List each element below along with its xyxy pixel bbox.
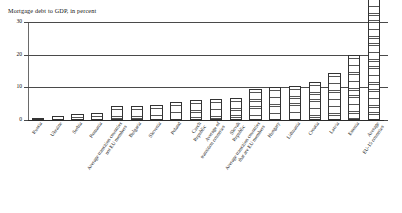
bar[interactable] [368, 0, 380, 120]
x-axis-label-line: Latvia [329, 121, 341, 135]
y-tick-0 [24, 120, 28, 121]
y-tick-right-20 [384, 55, 388, 56]
bar-series: 50 [28, 22, 384, 120]
bar-slot: 50 [368, 0, 380, 120]
y-tick-right-30 [384, 22, 388, 23]
x-axis-label-line: Estonia [347, 121, 361, 137]
bar-slot [348, 55, 360, 120]
y-tick-label-20: 20 [16, 52, 22, 58]
plot-area: 0102030 50 [28, 22, 384, 120]
x-axis-label-line: Ukraine [50, 121, 64, 138]
x-axis-label-line: Croatia [308, 121, 321, 137]
chart-title: Mortgage debt to GDP, in percent [8, 7, 96, 14]
y-tick-label-30: 30 [16, 19, 22, 25]
bar[interactable] [348, 55, 360, 120]
x-axis-label-line: Lithuania [285, 121, 301, 140]
y-tick-label-0: 0 [19, 117, 22, 123]
y-tick-label-10: 10 [16, 85, 22, 91]
y-tick-right-10 [384, 87, 388, 88]
x-axis-label-line: Poland [170, 121, 183, 136]
x-axis-label-line: Serbia [71, 121, 83, 135]
chart-container: Mortgage debt to GDP, in percent 0102030… [0, 0, 402, 213]
x-axis-label-line: Slovenia [148, 121, 163, 139]
x-axis-label-line: Russia [32, 121, 45, 135]
x-axis-label-line: Romania [88, 121, 103, 139]
bar-slot [328, 73, 340, 120]
bar[interactable] [328, 73, 340, 120]
